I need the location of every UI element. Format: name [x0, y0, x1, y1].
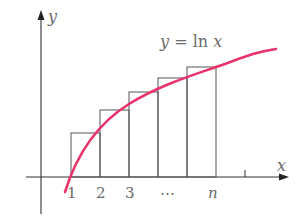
tick-label-n: n — [208, 186, 218, 201]
rectangle-3 — [129, 92, 158, 177]
ln-curve — [65, 49, 276, 192]
x-axis-label: x — [277, 158, 286, 174]
curve-label-y: y — [160, 32, 169, 51]
y-axis-arrow-icon — [38, 10, 45, 20]
rectangle-4 — [158, 78, 187, 177]
curve-label-eq: = ln — [169, 32, 213, 51]
tick-label-1: 1 — [67, 186, 77, 201]
rectangle-n — [187, 67, 216, 177]
tick-label-2: 2 — [96, 186, 106, 201]
ln-riemann-diagram: y x y = ln x 1 2 3 ⋯ n — [0, 0, 300, 222]
rectangle-1 — [71, 133, 100, 177]
tick-label-ellipsis: ⋯ — [160, 186, 175, 201]
tick-label-3: 3 — [125, 186, 135, 201]
riemann-rectangles — [71, 67, 216, 177]
curve-label-x: x — [213, 32, 222, 51]
rectangle-2 — [100, 110, 129, 177]
diagram-canvas — [0, 0, 300, 222]
curve-label: y = ln x — [160, 34, 222, 50]
y-axis-label: y — [48, 9, 57, 25]
y-axis — [38, 10, 45, 214]
